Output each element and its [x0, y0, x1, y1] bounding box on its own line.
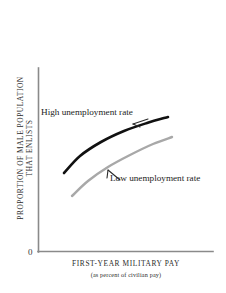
leader-line-low-unemployment-tick [107, 170, 108, 178]
leader-line-low-unemployment [108, 170, 120, 180]
chart-canvas [0, 0, 226, 293]
chart-figure: 0 PROPORTION OF MALE POPULATION THAT ENL… [0, 0, 226, 293]
series-line-low-unemployment [72, 137, 172, 196]
